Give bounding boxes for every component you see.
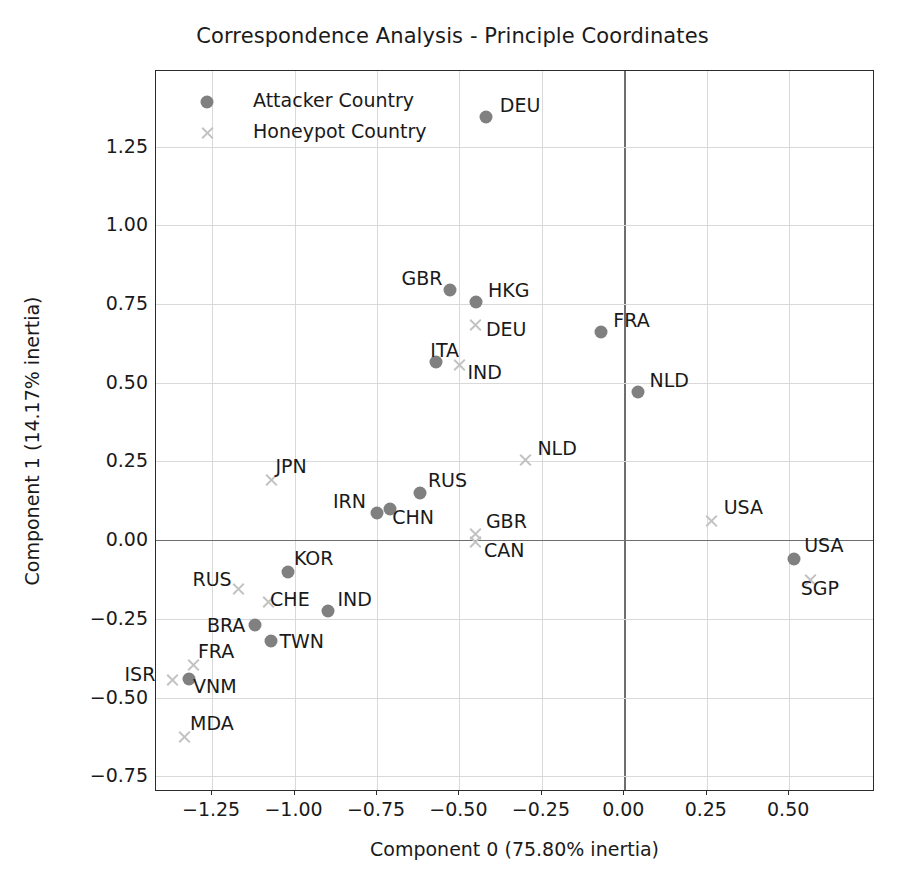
data-point-circle-hkg [469, 296, 482, 309]
x-axis-tick-label: 0.25 [685, 798, 727, 820]
data-point-label: USA [724, 496, 763, 518]
data-point-label: DEU [486, 318, 527, 340]
gridline-vertical [459, 71, 460, 790]
data-point-label: IND [467, 361, 501, 383]
x-axis-tick-label: −0.50 [429, 798, 487, 820]
chart-title: Correspondence Analysis - Principle Coor… [0, 24, 905, 48]
gridline-horizontal [156, 461, 873, 462]
y-axis-tick-label: 0.00 [106, 528, 148, 550]
x-axis-label: Component 0 (75.80% inertia) [155, 838, 874, 860]
chart-root: Correspondence Analysis - Principle Coor… [0, 0, 905, 890]
plot-area: DEUGBRHKGITAFRANLDRUSIRNCHNKORINDBRATWNV… [155, 70, 874, 791]
data-point-label: GBR [486, 510, 527, 532]
data-point-label: ISR [125, 663, 156, 685]
data-point-label: FRA [198, 640, 234, 662]
data-point-x-usa [704, 514, 719, 529]
gridline-horizontal [156, 383, 873, 384]
data-point-circle-kor [281, 565, 294, 578]
data-point-label: NLD [650, 369, 689, 391]
data-point-label: BRA [207, 614, 245, 636]
data-point-label: IND [338, 588, 372, 610]
gridline-horizontal [156, 147, 873, 148]
data-point-circle-nld [631, 386, 644, 399]
x-axis-tick-mark [294, 791, 295, 795]
data-point-label: USA [804, 534, 843, 556]
data-point-circle-twn [265, 634, 278, 647]
data-point-circle-deu [479, 110, 492, 123]
gridline-horizontal [156, 776, 873, 777]
gridline-vertical [377, 71, 378, 790]
data-point-label: CHN [392, 506, 434, 528]
gridline-horizontal [156, 619, 873, 620]
zero-line-vertical [624, 71, 625, 790]
legend-label-attacker: Attacker Country [253, 89, 414, 111]
data-point-circle-usa [788, 553, 801, 566]
data-point-x-can [468, 534, 483, 549]
data-point-label: TWN [279, 630, 324, 652]
data-point-label: SGP [801, 577, 839, 599]
data-point-circle-fra [595, 326, 608, 339]
data-point-label: HKG [488, 279, 529, 301]
data-point-label: RUS [193, 568, 232, 590]
legend-label-honeypot: Honeypot Country [253, 120, 427, 142]
data-point-circle-rus [413, 486, 426, 499]
data-point-x-rus [231, 581, 246, 596]
x-axis-tick-label: 0.00 [602, 798, 644, 820]
x-axis-tick-mark [788, 791, 789, 795]
x-axis-tick-label: 0.50 [767, 798, 809, 820]
gridline-horizontal [156, 304, 873, 305]
y-axis-tick-label: 1.25 [106, 135, 148, 157]
x-axis-tick-label: −1.25 [182, 798, 240, 820]
gridline-vertical [707, 71, 708, 790]
x-axis-tick-mark [541, 791, 542, 795]
y-axis-tick-label: −0.25 [90, 607, 148, 629]
y-axis-tick-label: 0.75 [106, 292, 148, 314]
gridline-vertical [295, 71, 296, 790]
data-point-label: IRN [333, 490, 366, 512]
x-axis-tick-mark [376, 791, 377, 795]
data-point-x-nld [518, 452, 533, 467]
data-point-circle-irn [371, 507, 384, 520]
x-axis-tick-label: −0.25 [512, 798, 570, 820]
data-point-x-ind [452, 358, 467, 373]
data-point-circle-bra [248, 619, 261, 632]
data-point-circle-ind [321, 605, 334, 618]
data-point-label: KOR [294, 547, 334, 569]
x-axis-tick-label: −1.00 [264, 798, 322, 820]
data-point-label: MDA [190, 712, 234, 734]
gridline-vertical [789, 71, 790, 790]
data-point-label: GBR [402, 267, 443, 289]
y-axis-tick-label: 0.25 [106, 449, 148, 471]
y-axis-tick-label: −0.50 [90, 686, 148, 708]
x-axis-tick-mark [211, 791, 212, 795]
gridline-vertical [542, 71, 543, 790]
data-point-label: CAN [484, 539, 524, 561]
data-point-circle-gbr [443, 283, 456, 296]
x-axis-tick-mark [458, 791, 459, 795]
data-point-label: CHE [270, 588, 310, 610]
y-axis-label: Component 1 (14.17% inertia) [21, 231, 43, 651]
data-point-label: DEU [500, 94, 541, 116]
data-point-label: NLD [537, 437, 576, 459]
y-axis-tick-label: 0.50 [106, 371, 148, 393]
y-axis-tick-label: −0.75 [90, 764, 148, 786]
gridline-horizontal [156, 698, 873, 699]
x-axis-tick-label: −0.75 [347, 798, 405, 820]
y-axis-tick-label: 1.00 [106, 213, 148, 235]
x-axis-tick-mark [706, 791, 707, 795]
data-point-label: FRA [613, 309, 649, 331]
data-point-x-isr [165, 673, 180, 688]
x-axis-tick-mark [623, 791, 624, 795]
data-point-label: RUS [428, 469, 467, 491]
data-point-x-deu [468, 317, 483, 332]
gridline-horizontal [156, 225, 873, 226]
data-point-label: JPN [275, 455, 306, 477]
data-point-label: VNM [193, 675, 237, 697]
